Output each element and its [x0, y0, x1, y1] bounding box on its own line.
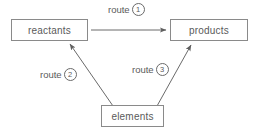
edge-label-route-3: route 3 — [132, 63, 169, 76]
edge-label-route-1-text: route — [108, 4, 130, 15]
edge-label-route-2: route 2 — [40, 68, 77, 81]
edge-label-route-1-number: 1 — [132, 3, 145, 16]
reaction-route-diagram: reactants products elements route 1 rout… — [0, 0, 260, 137]
node-products-label: products — [189, 25, 229, 36]
edge-label-route-3-number: 3 — [156, 63, 169, 76]
node-elements-label: elements — [111, 111, 153, 122]
node-products: products — [170, 19, 248, 41]
node-reactants: reactants — [11, 19, 88, 41]
edge-label-route-2-text: route — [40, 69, 62, 80]
edge-label-route-3-text: route — [132, 64, 154, 75]
edge-label-route-1: route 1 — [108, 3, 145, 16]
node-reactants-label: reactants — [28, 25, 71, 36]
edge-label-route-2-number: 2 — [64, 68, 77, 81]
node-elements: elements — [101, 105, 164, 127]
